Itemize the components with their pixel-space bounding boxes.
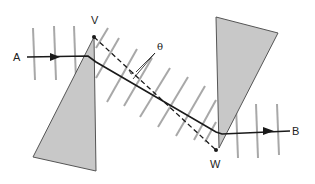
incident-wavefronts bbox=[33, 26, 76, 80]
prism-refraction-diagram: A B V W θ bbox=[0, 0, 315, 184]
arrowhead-icon-emergent bbox=[263, 127, 274, 135]
vertex-v-dot bbox=[92, 35, 96, 39]
label-w: W bbox=[210, 158, 221, 170]
label-v: V bbox=[91, 14, 99, 26]
right-prism bbox=[216, 17, 278, 148]
vertex-w-dot bbox=[214, 148, 218, 152]
label-a: A bbox=[13, 51, 21, 63]
label-theta: θ bbox=[157, 41, 163, 52]
label-b: B bbox=[292, 125, 299, 137]
tilted-wavefronts bbox=[96, 28, 216, 142]
